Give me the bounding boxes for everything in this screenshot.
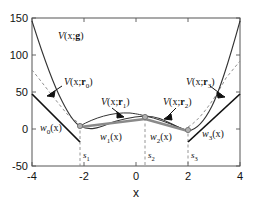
y-tick-label-0: 0 — [0, 123, 28, 135]
y-tick-label-100: 100 — [0, 49, 28, 61]
annotation-V-x-g-open: (x; — [64, 30, 75, 41]
annotation-w2-x-fn: w — [150, 131, 157, 142]
annotation-V-x-r2-open: (x; — [169, 96, 180, 107]
annotation-V-x-g-close: ) — [80, 30, 83, 41]
breakpoint-label-s1-sub: 1 — [87, 155, 90, 162]
annotation-V-x-r3-open: (x; — [192, 76, 203, 87]
breakpoint-label-s2-sub: 2 — [152, 155, 155, 162]
knot-marker-s1 — [77, 123, 82, 128]
annotation-V-x-r3: V(x;r3) — [186, 76, 215, 90]
annotation-w2-x: w2(x) — [150, 131, 172, 145]
annotation-w1-x-fn: w — [100, 131, 107, 142]
annotation-w0-x: w0(x) — [40, 122, 62, 136]
annotation-V-x-r2: V(x;r2) — [163, 96, 192, 110]
annotation-w3-x-fn: w — [202, 128, 209, 139]
annotation-V-x-g: V(x;g) — [58, 30, 84, 41]
annotation-w2-x-open: (x) — [160, 131, 172, 142]
knot-marker-s2 — [142, 114, 147, 119]
annotation-V-x-r2-close: ) — [188, 96, 191, 107]
annotation-V-x-r3-close: ) — [211, 76, 214, 87]
y-tick-label-150: 150 — [0, 12, 28, 24]
breakpoint-label-s3-sub: 3 — [195, 155, 198, 162]
x-tick-label-minus2: -2 — [74, 170, 94, 182]
annotation-w1-x: w1(x) — [100, 131, 122, 145]
x-tick-label-minus4: -4 — [22, 170, 42, 182]
knot-marker-s3 — [185, 127, 190, 132]
x-tick-label-2: 2 — [178, 170, 198, 182]
annotation-V-x-r0-open: (x; — [70, 76, 81, 87]
figure-panel: 150 100 50 0 -50 -4 -2 0 2 4 x V(x;g) V(… — [0, 0, 258, 208]
annotation-V-x-r1: V(x;r1) — [101, 96, 130, 110]
breakpoint-label-s3: s3 — [191, 150, 198, 162]
x-tick-label-0: 0 — [126, 170, 146, 182]
breakpoint-label-s2: s2 — [148, 150, 155, 162]
x-axis-title: x — [126, 186, 146, 200]
annotation-V-x-r0: V(x;r0) — [64, 76, 93, 90]
annotation-V-x-r1-close: ) — [126, 96, 129, 107]
annotation-V-x-r0-close: ) — [89, 76, 92, 87]
annotation-w0-x-fn: w — [40, 122, 47, 133]
annotation-w0-x-open: (x) — [50, 122, 62, 133]
x-tick-label-4: 4 — [230, 170, 250, 182]
breakpoint-label-s1: s1 — [83, 150, 90, 162]
y-tick-label-50: 50 — [0, 86, 28, 98]
annotation-w1-x-open: (x) — [110, 131, 122, 142]
annotation-V-x-r1-open: (x; — [107, 96, 118, 107]
annotation-w3-x-open: (x) — [212, 128, 224, 139]
annotation-w3-x: w3(x) — [202, 128, 224, 142]
